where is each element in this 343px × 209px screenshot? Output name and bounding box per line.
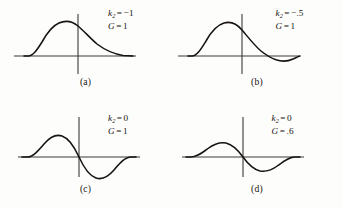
panel-a-g-equation: G=1 [108, 20, 134, 32]
plot-panel-b: k2=−.5 G=1 (b) [172, 0, 343, 104]
panel-c-annotation: k2=0 G=1 [108, 112, 128, 137]
plot-panel-c: k2=0 G=1 (c) [0, 105, 171, 209]
plot-a-svg [0, 0, 171, 104]
panel-c-k2-equation: k2=0 [108, 112, 128, 125]
panel-c-caption: (c) [0, 183, 171, 194]
panel-d-caption: (d) [172, 183, 343, 194]
panel-b-annotation: k2=−.5 G=1 [276, 7, 304, 32]
plot-b-svg [172, 0, 343, 104]
panel-a-caption: (a) [0, 76, 171, 87]
panel-d-annotation: k2=0 G=.6 [272, 112, 294, 137]
panel-b-caption: (b) [172, 76, 343, 87]
panel-d-k2-equation: k2=0 [272, 112, 294, 125]
figure-panel-grid: k2=−1 G=1 (a) k2=−.5 G=1 (b) k2=0 G=1 (c… [0, 0, 343, 209]
panel-c-g-equation: G=1 [108, 125, 128, 137]
panel-a-annotation: k2=−1 G=1 [108, 7, 134, 32]
panel-b-g-equation: G=1 [276, 20, 304, 32]
panel-d-g-equation: G=.6 [272, 125, 294, 137]
panel-b-k2-equation: k2=−.5 [276, 7, 304, 20]
plot-panel-a: k2=−1 G=1 (a) [0, 0, 171, 104]
plot-panel-d: k2=0 G=.6 (d) [172, 105, 343, 209]
panel-a-k2-equation: k2=−1 [108, 7, 134, 20]
